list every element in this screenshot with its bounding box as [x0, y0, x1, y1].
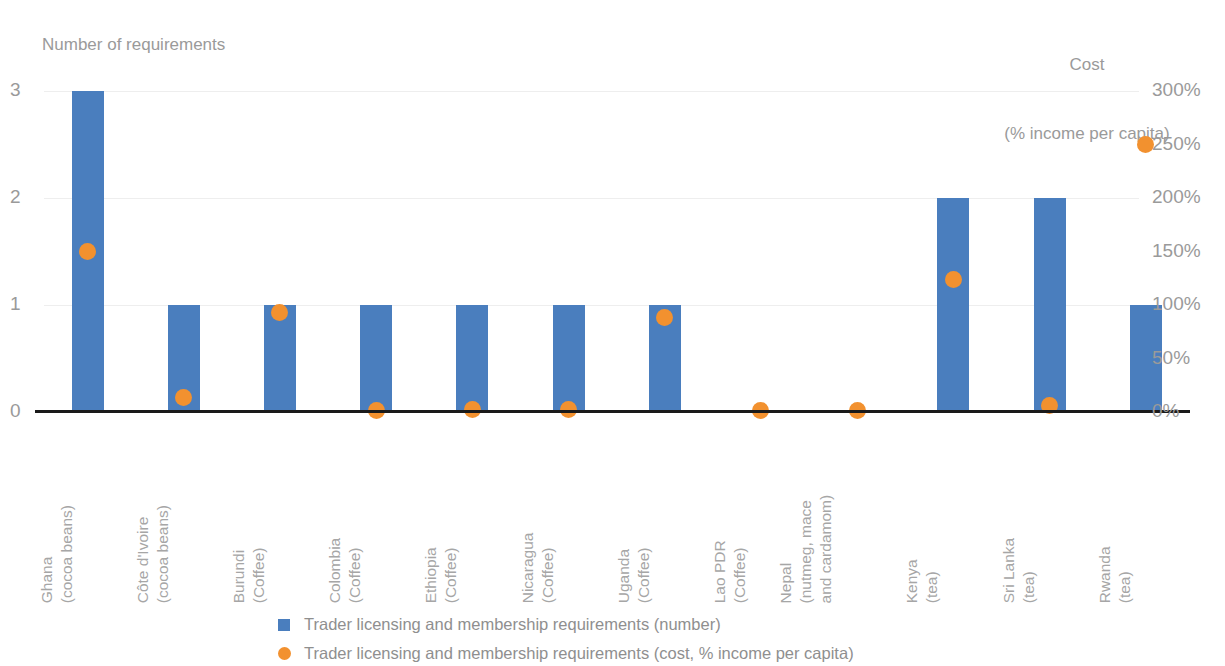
right-tick-label: 50%: [1152, 348, 1222, 367]
right-tick-label: 200%: [1152, 187, 1222, 206]
bar: [937, 198, 969, 412]
category-label-line: (Coffee): [345, 428, 365, 603]
category-label-line: Colombia: [325, 428, 345, 603]
category-label-line: (tea): [1115, 428, 1135, 603]
chart-container: Number of requirements Cost (% income pe…: [0, 0, 1225, 666]
left-tick-label: 0: [10, 401, 36, 420]
right-tick-label: 100%: [1152, 294, 1222, 313]
chart-legend: Trader licensing and membership requirem…: [278, 610, 978, 666]
category-label-line: (tea): [922, 428, 942, 603]
category-label-line: (Coffee): [441, 428, 461, 603]
category-label-line: Lao PDR: [710, 428, 730, 603]
plot-area: [44, 91, 1139, 412]
gridline: [44, 91, 1139, 92]
left-axis-title: Number of requirements: [42, 34, 225, 57]
category-label-line: Rwanda: [1094, 428, 1114, 603]
category-label-line: Nepal: [776, 428, 796, 603]
bar: [1034, 198, 1066, 412]
legend-label-dots: Trader licensing and membership requirem…: [304, 644, 854, 663]
legend-item-dots: Trader licensing and membership requirem…: [278, 639, 978, 666]
category-label-line: Sri Lanka: [998, 428, 1018, 603]
right-axis-title-line1: Cost: [957, 54, 1217, 77]
right-tick-label: 250%: [1152, 134, 1222, 153]
bar: [456, 305, 488, 412]
category-label-line: and cardamom): [816, 428, 836, 603]
right-tick-label: 300%: [1152, 80, 1222, 99]
category-label-line: Ethiopia: [421, 428, 441, 603]
bar: [264, 305, 296, 412]
right-tick-label: 0%: [1152, 401, 1222, 420]
category-label-line: Nicaragua: [517, 428, 537, 603]
legend-item-bars: Trader licensing and membership requirem…: [278, 610, 978, 639]
category-label-line: Uganda: [613, 428, 633, 603]
right-tick-label: 150%: [1152, 241, 1222, 260]
category-label-line: Burundi: [229, 428, 249, 603]
category-label-line: (Coffee): [730, 428, 750, 603]
category-label-line: (Coffee): [249, 428, 269, 603]
left-tick-label: 3: [10, 80, 36, 99]
category-label-line: Côte d'Ivoire: [132, 428, 152, 603]
bar: [360, 305, 392, 412]
bar: [553, 305, 585, 412]
gridline: [44, 305, 1139, 306]
legend-circle-icon: [278, 647, 291, 660]
category-label-line: (tea): [1018, 428, 1038, 603]
category-label-line: (Coffee): [537, 428, 557, 603]
data-point: [79, 243, 96, 260]
gridline: [44, 198, 1139, 199]
category-label-line: (nutmeg, mace: [796, 428, 816, 603]
data-point: [175, 389, 192, 406]
category-label-line: (Coffee): [634, 428, 654, 603]
left-tick-label: 2: [10, 187, 36, 206]
data-point: [945, 271, 962, 288]
category-label-line: Ghana: [36, 428, 56, 603]
legend-square-icon: [278, 619, 290, 631]
legend-label-bars: Trader licensing and membership requirem…: [304, 615, 721, 634]
left-tick-label: 1: [10, 294, 36, 313]
category-label-line: (cocoa beans): [56, 428, 76, 603]
zero-baseline: [35, 410, 1190, 413]
category-label-line: (cocoa beans): [153, 428, 173, 603]
category-label-line: Kenya: [902, 428, 922, 603]
